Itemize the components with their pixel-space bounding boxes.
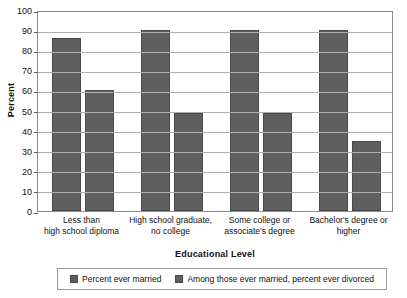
grid-line	[38, 52, 392, 53]
grid-line	[38, 92, 392, 93]
y-axis-tick-mark	[34, 112, 38, 113]
grid-line	[38, 132, 392, 133]
x-axis-category-label-line: higher	[296, 226, 401, 237]
y-axis-tick-mark	[34, 72, 38, 73]
legend-item: Among those ever married, percent ever d…	[175, 275, 374, 284]
x-axis-category-label: Bachelor's degree orhigher	[296, 215, 401, 237]
legend-swatch-icon	[175, 275, 183, 283]
y-axis-tick-mark	[34, 92, 38, 93]
bar-chart: Percent 1009080706050403020100 Less than…	[0, 0, 407, 298]
grid-line	[38, 112, 392, 113]
bar	[141, 30, 170, 211]
grid-line	[38, 32, 392, 33]
y-axis-tick-label: 80	[6, 47, 32, 56]
x-axis-category-label-line: Bachelor's degree or	[296, 215, 401, 226]
legend-item: Percent ever married	[70, 275, 161, 284]
y-axis-tick-mark	[34, 152, 38, 153]
grid-line	[38, 152, 392, 153]
y-axis-tick-mark	[34, 172, 38, 173]
bar	[174, 113, 203, 211]
legend-label: Percent ever married	[82, 275, 161, 284]
bar	[263, 113, 292, 211]
y-axis-tick-label: 70	[6, 67, 32, 76]
bar	[319, 30, 348, 211]
y-axis-tick-label: 30	[6, 147, 32, 156]
x-axis-title: Educational Level	[37, 249, 393, 259]
bar	[230, 30, 259, 211]
grid-line	[38, 192, 392, 193]
y-axis-tick-label: 50	[6, 107, 32, 116]
y-axis-tick-mark	[34, 192, 38, 193]
legend-swatch-icon	[70, 275, 78, 283]
grid-line	[38, 72, 392, 73]
y-axis-tick-label: 60	[6, 87, 32, 96]
bar	[52, 38, 81, 211]
y-axis-tick-mark	[34, 213, 38, 214]
y-axis-tick-mark	[34, 52, 38, 53]
y-axis-tick-label: 90	[6, 27, 32, 36]
y-axis-tick-mark	[34, 132, 38, 133]
chart-legend: Percent ever marriedAmong those ever mar…	[57, 268, 387, 290]
y-axis-tick-label: 40	[6, 127, 32, 136]
legend-label: Among those ever married, percent ever d…	[187, 275, 374, 284]
grid-line	[38, 172, 392, 173]
y-axis-tick-label: 100	[6, 7, 32, 16]
y-axis-tick-label: 20	[6, 167, 32, 176]
y-axis-tick-mark	[34, 32, 38, 33]
x-axis-category-labels: Less thanhigh school diplomaHigh school …	[37, 215, 393, 245]
y-axis-tick-label: 10	[6, 187, 32, 196]
plot-area	[37, 11, 393, 212]
y-axis-tick-mark	[34, 12, 38, 13]
y-axis-tick-labels: 1009080706050403020100	[6, 11, 32, 212]
